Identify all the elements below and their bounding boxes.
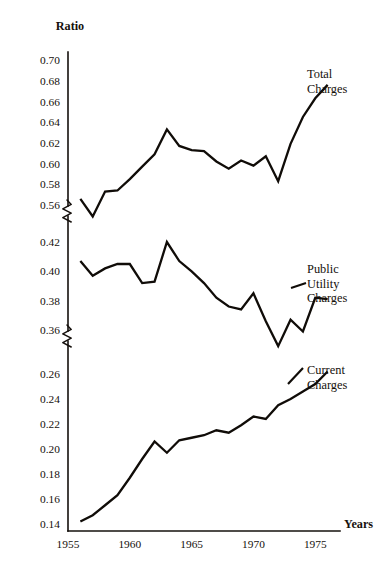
y-tick-label: 0.26 xyxy=(40,368,60,380)
x-tick-label: 1955 xyxy=(57,538,80,550)
series-label-current-charges: CurrentCharges xyxy=(307,363,348,392)
axis-break-marks xyxy=(63,200,71,347)
y-tick-label: 0.16 xyxy=(40,493,60,505)
y-tick-label-group: 0.560.580.600.620.640.660.680.700.360.38… xyxy=(40,54,60,530)
series-label-line: Charges xyxy=(307,291,348,305)
series-label-leader xyxy=(291,283,306,288)
series-label-public-utility-charges: PublicUtilityCharges xyxy=(307,262,348,305)
y-tick-label: 0.60 xyxy=(40,158,60,170)
series-line-total-charges xyxy=(80,85,327,217)
y-tick-label: 0.64 xyxy=(40,116,60,128)
series-annotation-group: TotalChargesPublicUtilityChargesCurrentC… xyxy=(288,67,348,392)
y-tick-label: 0.66 xyxy=(40,96,60,108)
y-tick-label: 0.18 xyxy=(40,468,60,480)
y-tick-label: 0.68 xyxy=(40,75,60,87)
x-axis-title: Years xyxy=(344,517,373,531)
y-tick-label: 0.24 xyxy=(40,393,60,405)
y-tick-label: 0.14 xyxy=(40,518,60,530)
series-label-leader xyxy=(288,368,303,384)
series-label-line: Charges xyxy=(307,82,348,96)
y-tick-label: 0.70 xyxy=(40,54,60,66)
series-label-line: Utility xyxy=(307,277,340,291)
x-tick-label: 1970 xyxy=(242,538,265,550)
y-tick-label: 0.62 xyxy=(40,137,60,149)
y-tick-label: 0.58 xyxy=(40,178,60,190)
chart-figure: Ratio Years 0.560.580.600.620.640.660.68… xyxy=(0,0,375,576)
x-tick-label: 1965 xyxy=(180,538,203,550)
series-line-public-utility-charges xyxy=(80,242,327,346)
y-tick-label: 0.56 xyxy=(40,199,60,211)
y-axis-title: Ratio xyxy=(56,19,84,33)
ratio-line-chart: Ratio Years 0.560.580.600.620.640.660.68… xyxy=(0,0,375,576)
series-line-group xyxy=(80,85,327,522)
y-tick-label: 0.40 xyxy=(40,265,60,277)
y-tick-label: 0.38 xyxy=(40,295,60,307)
y-tick-label: 0.36 xyxy=(40,324,60,336)
y-tick-label: 0.22 xyxy=(40,418,60,430)
series-line-current-charges xyxy=(80,372,327,522)
axis-break-zigzag xyxy=(63,325,71,347)
x-tick-label: 1960 xyxy=(118,538,141,550)
series-label-line: Charges xyxy=(307,378,348,392)
axis-break-zigzag xyxy=(63,200,71,222)
series-label-total-charges: TotalCharges xyxy=(307,67,348,96)
series-label-line: Total xyxy=(307,67,333,81)
series-label-line: Current xyxy=(307,363,345,377)
x-tick-label-group: 19551960196519701975 xyxy=(57,538,327,550)
y-tick-label: 0.42 xyxy=(40,236,60,248)
y-tick-label: 0.20 xyxy=(40,443,60,455)
series-label-line: Public xyxy=(307,262,339,276)
x-tick-label: 1975 xyxy=(304,538,327,550)
